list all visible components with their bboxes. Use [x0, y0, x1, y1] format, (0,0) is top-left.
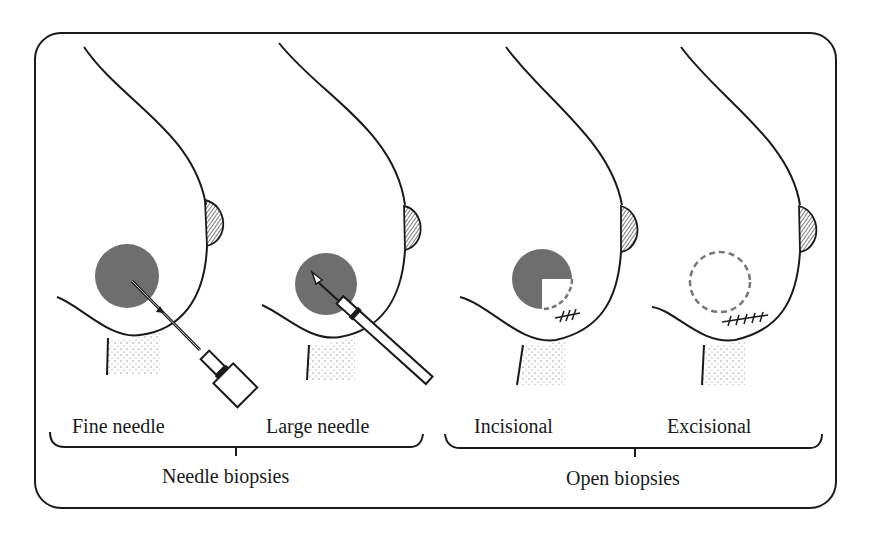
sutures-icon [555, 309, 580, 322]
panel-incisional [460, 47, 638, 385]
panel-excisional [652, 47, 816, 385]
excised-area-outline [690, 252, 750, 312]
label-incisional: Incisional [474, 416, 553, 436]
label-fine-needle: Fine needle [72, 416, 165, 436]
panel-large-needle [262, 43, 434, 385]
nipple-icon [799, 206, 816, 252]
label-large-needle: Large needle [266, 416, 369, 436]
sutures-icon [722, 312, 768, 326]
bracket-open-biopsies [445, 434, 822, 457]
breast-biopsy-diagram: Fine needle Large needle Incisional Exci… [0, 0, 869, 538]
label-excisional: Excisional [667, 416, 751, 436]
nipple-icon [621, 206, 638, 252]
nipple-icon [404, 206, 421, 250]
nipple-icon [205, 200, 223, 246]
group-label-needle-biopsies: Needle biopsies [162, 466, 289, 486]
diagram-canvas [0, 0, 869, 538]
group-label-open-biopsies: Open biopsies [566, 468, 680, 488]
panel-fine-needle [57, 47, 257, 407]
tumor-mass-partial [512, 249, 572, 309]
